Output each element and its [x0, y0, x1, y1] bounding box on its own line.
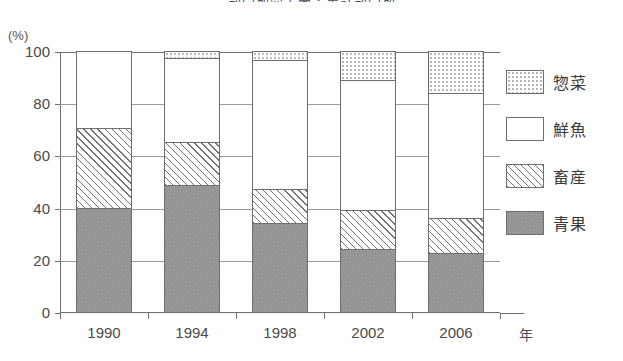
x-tick-label-1994: 1994 [152, 324, 232, 341]
bar-segment-1994-惣菜[interactable] [164, 51, 220, 59]
y-tick-100 [55, 52, 60, 53]
y-axis-unit-label: (%) [8, 28, 28, 43]
bar-segment-1998-青果[interactable] [252, 223, 308, 313]
y-tick-40 [55, 209, 60, 210]
x-axis-extension [500, 313, 524, 314]
x-axis-unit-label: 年 [519, 324, 533, 344]
bar-segment-1990-鮮魚[interactable] [76, 51, 132, 129]
y-tick-60 [55, 156, 60, 157]
bar-segment-1994-鮮魚[interactable] [164, 58, 220, 144]
x-tick-1 [148, 313, 149, 319]
bar-segment-1994-畜産[interactable] [164, 142, 220, 186]
x-tick-label-1998: 1998 [240, 324, 320, 341]
plot-area: 19901994199820022006 [60, 52, 500, 313]
bar-segment-1994-青果[interactable] [164, 185, 220, 313]
bar-segment-2006-青果[interactable] [428, 253, 484, 313]
bar-1998[interactable] [252, 52, 308, 313]
legend-label-鮮魚: 鮮魚 [553, 117, 587, 141]
y-tick-label-100: 100 [4, 43, 50, 60]
x-tick-4 [412, 313, 413, 319]
legend-item-惣菜[interactable]: 惣菜 [506, 63, 618, 101]
bar-segment-1990-畜産[interactable] [76, 128, 132, 209]
y-tick-label-0: 0 [4, 304, 50, 321]
bar-2002[interactable] [340, 52, 396, 313]
legend-label-青果: 青果 [553, 211, 587, 235]
x-tick-0 [60, 313, 61, 319]
y-tick-20 [55, 261, 60, 262]
bar-1990[interactable] [76, 52, 132, 313]
legend-item-鮮魚[interactable]: 鮮魚 [506, 110, 618, 148]
x-tick-2 [236, 313, 237, 319]
legend-label-畜産: 畜産 [553, 164, 587, 188]
x-tick-label-2002: 2002 [328, 324, 408, 341]
y-tick-label-60: 60 [4, 147, 50, 164]
y-tick-80 [55, 104, 60, 105]
bar-1994[interactable] [164, 52, 220, 313]
bar-segment-1998-畜産[interactable] [252, 189, 308, 224]
y-tick-label-40: 40 [4, 200, 50, 217]
bar-2006[interactable] [428, 52, 484, 313]
bar-segment-1998-惣菜[interactable] [252, 51, 308, 61]
chart-title: 部門別売上高・集計部門別 [0, 0, 623, 2]
y-tick-label-80: 80 [4, 95, 50, 112]
grey-swatch [506, 211, 544, 235]
white-swatch [506, 117, 544, 141]
bar-segment-2002-青果[interactable] [340, 249, 396, 313]
x-tick-3 [324, 313, 325, 319]
bar-segment-1990-青果[interactable] [76, 208, 132, 313]
chart-figure: 部門別売上高・集計部門別 (%) 19901994199820022006 02… [0, 0, 623, 361]
legend-item-青果[interactable]: 青果 [506, 204, 618, 242]
chart-legend: 惣菜鮮魚畜産青果 [506, 63, 618, 251]
legend-item-畜産[interactable]: 畜産 [506, 157, 618, 195]
x-tick-label-2006: 2006 [416, 324, 496, 341]
x-tick-label-1990: 1990 [64, 324, 144, 341]
bar-segment-1998-鮮魚[interactable] [252, 60, 308, 190]
legend-label-惣菜: 惣菜 [553, 70, 587, 94]
bar-segment-2006-畜産[interactable] [428, 218, 484, 254]
dotted-swatch [506, 70, 544, 94]
y-tick-label-20: 20 [4, 252, 50, 269]
bar-segment-2006-惣菜[interactable] [428, 51, 484, 94]
bar-segment-2006-鮮魚[interactable] [428, 93, 484, 219]
bar-segment-2002-惣菜[interactable] [340, 51, 396, 81]
hatched-swatch [506, 164, 544, 188]
bar-segment-2002-鮮魚[interactable] [340, 80, 396, 212]
bar-segment-2002-畜産[interactable] [340, 210, 396, 250]
